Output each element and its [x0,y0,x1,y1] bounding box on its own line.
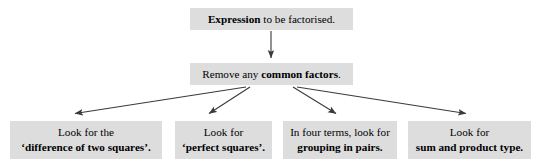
node-grouping-in-pairs: In four terms, look for grouping in pair… [283,121,397,159]
arrow-common-factors-to-difference-of-two-squares [75,87,246,114]
node-perfect-squares-line2: ‘perfect squares’. [182,140,265,155]
node-sum-and-product-line1: Look for [450,125,489,140]
node-grouping-in-pairs-line1: In four terms, look for [290,125,390,140]
node-difference-of-two-squares-emphasis: ‘difference of two squares’. [21,141,150,153]
flowchart-canvas: Expression to be factorised. Remove any … [0,0,540,164]
node-sum-and-product-line2: sum and product type. [416,140,523,155]
node-common-factors-tail: . [338,68,341,80]
arrow-common-factors-to-perfect-squares [209,87,250,114]
node-common-factors-lead: Remove any [202,68,261,80]
node-expression-text: Expression to be factorised. [208,12,335,27]
node-difference-of-two-squares: Look for the ‘difference of two squares’… [10,121,162,159]
arrow-common-factors-to-sum-and-product [297,87,466,114]
node-common-factors: Remove any common factors. [190,63,353,85]
node-perfect-squares-line1: Look for [204,125,243,140]
arrow-common-factors-to-grouping-in-pairs [293,87,336,114]
node-grouping-in-pairs-line2: grouping in pairs. [297,140,382,155]
node-expression: Expression to be factorised. [190,8,353,30]
node-common-factors-text: Remove any common factors. [202,67,341,82]
node-perfect-squares-emphasis: ‘perfect squares’. [182,141,265,153]
node-expression-rest: to be factorised. [261,13,336,25]
node-expression-emphasis: Expression [208,13,261,25]
node-sum-and-product-emphasis: sum and product type. [416,141,523,153]
node-common-factors-emphasis: common factors [261,68,338,80]
node-difference-of-two-squares-line1: Look for the [58,125,114,140]
node-difference-of-two-squares-line2: ‘difference of two squares’. [21,140,150,155]
node-grouping-in-pairs-emphasis: grouping in pairs. [297,141,382,153]
node-perfect-squares: Look for ‘perfect squares’. [175,121,272,159]
node-sum-and-product: Look for sum and product type. [408,121,531,159]
